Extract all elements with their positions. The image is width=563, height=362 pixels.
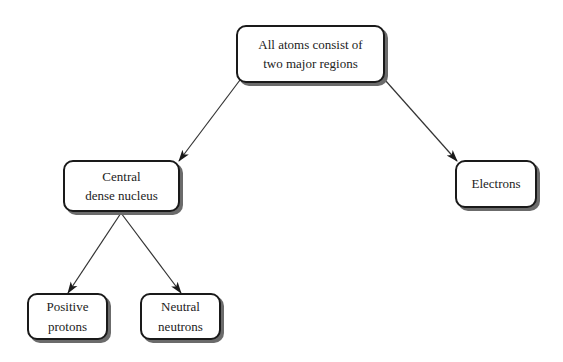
edge-nucleus-to-neutrons	[121, 213, 181, 293]
node-electrons: Electrons	[455, 160, 537, 208]
node-neutral-neutrons: Neutral neutrons	[140, 293, 221, 340]
edge-root-to-electrons	[385, 80, 457, 161]
node-root-label: All atoms consist of two major regions	[258, 35, 362, 74]
concept-map-diagram: All atoms consist of two major regions C…	[0, 0, 563, 362]
edge-root-to-nucleus	[179, 80, 240, 161]
node-protons-label: Positive protons	[47, 297, 89, 336]
node-central-nucleus: Central dense nucleus	[63, 160, 180, 212]
node-electrons-label: Electrons	[471, 174, 520, 194]
node-positive-protons: Positive protons	[27, 293, 108, 340]
node-root-all-atoms: All atoms consist of two major regions	[236, 25, 385, 83]
node-nucleus-label: Central dense nucleus	[85, 167, 158, 206]
edge-nucleus-to-protons	[68, 213, 121, 293]
node-neutrons-label: Neutral neutrons	[158, 297, 203, 336]
